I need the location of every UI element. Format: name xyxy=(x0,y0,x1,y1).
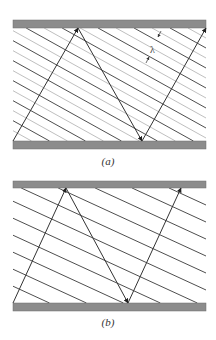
secondary-wavefront-line xyxy=(116,28,206,78)
wavefront-line xyxy=(13,235,160,303)
wavefront-line xyxy=(95,188,206,239)
bottom-plate xyxy=(13,303,206,311)
wavelength-tick-bottom xyxy=(146,57,149,63)
wavefront-line xyxy=(13,201,206,290)
top-plate xyxy=(13,20,206,28)
wavefront-line xyxy=(13,286,49,303)
caption-b: (b) xyxy=(0,316,216,328)
wavefront-line xyxy=(13,81,121,141)
secondary-wavefront-line xyxy=(13,71,139,141)
wavefront-line xyxy=(98,28,206,88)
wavefront-line xyxy=(58,188,206,256)
secondary-wavefront-line xyxy=(80,28,206,98)
ray-arrow xyxy=(66,188,128,303)
wavefront-line xyxy=(21,188,206,273)
wavefront-line xyxy=(132,188,206,222)
caption-a: (a) xyxy=(0,155,216,167)
wavefront-line xyxy=(13,101,85,141)
secondary-wavefront-line xyxy=(13,51,175,141)
panel-b xyxy=(13,181,206,311)
top-plate xyxy=(13,181,206,188)
bottom-plate xyxy=(13,141,206,149)
wavefront-line xyxy=(13,61,157,141)
wavelength-label: λ xyxy=(150,44,155,55)
wavefront-line xyxy=(13,252,123,303)
panel-a xyxy=(13,20,206,149)
wavefront-line xyxy=(62,28,206,108)
secondary-wavefront-line xyxy=(13,91,103,141)
waveguide-diagram xyxy=(0,0,216,340)
ray-arrow xyxy=(13,28,78,141)
wavefront-line xyxy=(13,269,86,303)
secondary-wavefront-line xyxy=(44,28,206,118)
ray-arrow xyxy=(128,188,181,303)
